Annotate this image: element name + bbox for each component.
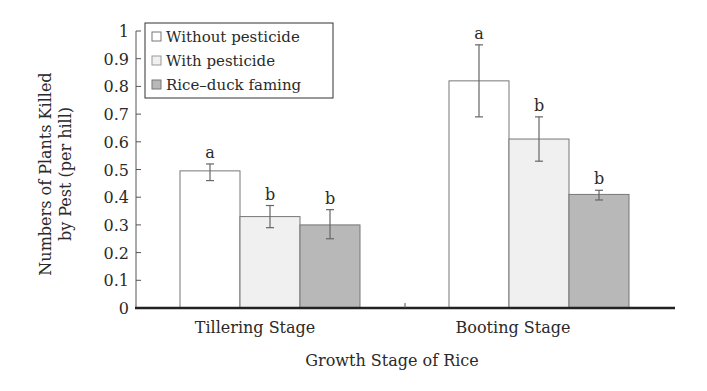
y-axis-title-line-1: Numbers of Plants Killed (36, 72, 55, 275)
x-tick-label-booting: Booting Stage (456, 318, 571, 337)
x-axis-title: Growth Stage of Rice (305, 351, 479, 370)
legend-swatch-rice-duck (152, 80, 161, 89)
y-tick-label: 0.1 (104, 271, 129, 290)
y-tick-label: 0.7 (104, 105, 129, 124)
legend-label-with-pesticide: With pesticide (166, 52, 275, 70)
bar (240, 217, 300, 308)
y-tick-label: 1 (119, 22, 129, 41)
bar (180, 171, 240, 308)
y-tick-label: 0.9 (104, 50, 129, 69)
legend-swatch-with-pesticide (152, 56, 161, 65)
legend-swatch-without-pesticide (152, 32, 161, 41)
y-tick-label: 0.2 (104, 244, 129, 263)
legend: Without pesticide With pesticide Rice–du… (145, 23, 333, 98)
y-axis-title: Numbers of Plants Killed by Pest (per hi… (36, 72, 75, 275)
y-tick-label: 0.6 (104, 133, 129, 152)
significance-letter: b (594, 169, 604, 188)
y-axis-title-line-2: by Pest (per hill) (56, 107, 75, 241)
y-tick-label: 0 (119, 299, 129, 318)
bar-chart: 00.10.20.30.40.50.60.70.80.91 abbabb Til… (0, 0, 707, 391)
y-tick-label: 0.4 (104, 188, 129, 207)
bar (509, 139, 569, 308)
significance-letter: b (265, 185, 275, 204)
x-tick-label-tillering: Tillering Stage (195, 318, 316, 337)
bar (569, 194, 629, 308)
legend-label-without-pesticide: Without pesticide (166, 28, 300, 46)
y-axis-ticks: 00.10.20.30.40.50.60.70.80.91 (104, 22, 141, 318)
significance-letter: a (205, 143, 215, 162)
y-tick-label: 0.8 (104, 77, 129, 96)
y-tick-label: 0.5 (104, 161, 129, 180)
y-tick-label: 0.3 (104, 216, 129, 235)
legend-label-rice-duck: Rice–duck faming (166, 76, 302, 94)
significance-letter: b (325, 189, 335, 208)
bars (180, 81, 629, 308)
significance-letter: b (534, 96, 544, 115)
significance-letter: a (474, 24, 484, 43)
